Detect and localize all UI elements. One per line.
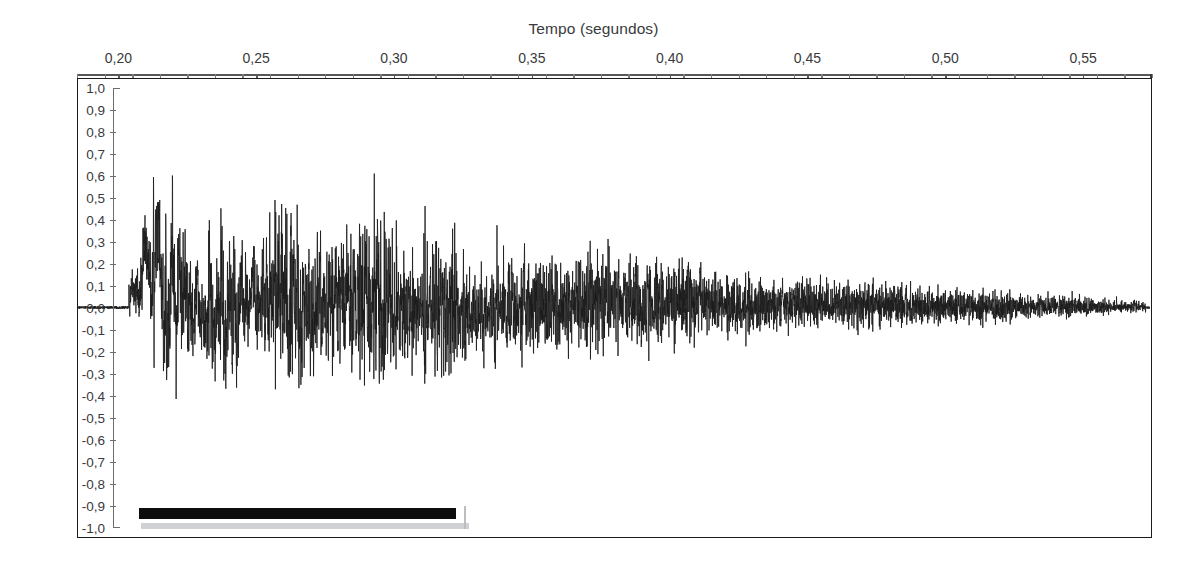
x-axis-minor-tick [353,74,354,78]
x-axis-minor-tick [105,74,106,78]
y-axis-tick-label: 0,2 [86,257,105,272]
x-axis-minor-tick [270,74,271,78]
y-axis-tick-label: -0,4 [82,389,105,404]
y-axis-tick-label: 0,7 [86,147,105,162]
y-axis-tick [110,352,116,353]
x-axis-minor-tick [463,74,464,78]
x-axis-minor-tick [380,74,381,78]
x-axis-minor-tick [876,74,877,78]
x-axis-minor-tick [573,74,574,78]
y-axis-tick-label: 0,1 [86,279,105,294]
x-axis-minor-tick [821,74,822,78]
waveform-trace [78,79,1150,536]
x-axis-minor-tick [518,74,519,78]
x-axis-minor-tick [1069,74,1070,78]
duration-bar-shadow [141,523,469,529]
y-axis-tick [110,154,116,155]
x-axis-minor-tick [711,74,712,78]
y-axis-tick-label: 0,5 [86,191,105,206]
x-axis-minor-tick [739,74,740,78]
x-axis-minor-tick [904,74,905,78]
y-axis-tick-label: -0,2 [82,345,105,360]
x-axis-minor-tick [325,74,326,78]
y-axis-tick-label: -0,5 [82,411,105,426]
x-axis-minor-tick [656,74,657,78]
y-axis-tick [110,176,116,177]
y-axis-tick [110,132,116,133]
x-axis-minor-tick [435,74,436,78]
y-axis-tick-label: -0,1 [82,323,105,338]
x-axis-minor-tick [1152,74,1153,78]
waveform-path [78,174,1150,399]
x-axis-minor-tick [160,74,161,78]
x-axis-minor-tick [766,74,767,78]
waveform-figure: Tempo (segundos) Amplitude relativa 0,20… [0,0,1187,566]
y-axis-tick-label: 0,3 [86,235,105,250]
duration-bar-endtick [464,506,466,529]
plot-area [77,78,1152,538]
y-axis-tick [110,220,116,221]
x-axis-tick-label: 0,30 [380,50,407,66]
x-axis-tick-label: 0,35 [518,50,545,66]
x-axis-minor-tick [1124,74,1125,78]
y-axis-tick-label: -1,0 [82,521,105,536]
x-axis-minor-tick [546,74,547,78]
y-axis-tick [110,110,116,111]
y-axis-tick [110,462,116,463]
y-axis-tick-label: 0,8 [86,125,105,140]
y-axis-tick [110,484,116,485]
x-axis-minor-tick [132,74,133,78]
y-axis-tick [110,506,116,507]
y-axis-cap-bottom [113,527,120,528]
y-axis-tick-label: 0,6 [86,169,105,184]
y-axis-tick-label: -0,8 [82,477,105,492]
y-axis-tick-label: 0,0 [86,301,105,316]
x-axis-minor-tick [187,74,188,78]
x-axis-minor-tick [987,74,988,78]
y-axis-tick [110,374,116,375]
y-axis-tick [110,264,116,265]
y-axis-tick-label: -0,9 [82,499,105,514]
x-axis-minor-tick [1097,74,1098,78]
x-axis-tick-label: 0,50 [932,50,959,66]
y-axis-tick [110,418,116,419]
x-axis-tick-label: 0,40 [656,50,683,66]
duration-bar [139,508,456,519]
y-axis-tick-label: 0,4 [86,213,105,228]
y-axis-tick [110,440,116,441]
x-axis-minor-tick [77,74,78,78]
x-axis-minor-tick [298,74,299,78]
x-axis-minor-tick [683,74,684,78]
y-axis-tick-label: -0,6 [82,433,105,448]
x-axis-minor-tick [408,74,409,78]
y-axis-tick-label: -0,7 [82,455,105,470]
x-axis-minor-tick [1042,74,1043,78]
x-axis-tick-label: 0,25 [243,50,270,66]
y-axis-tick [110,198,116,199]
y-axis-tick-label: -0,3 [82,367,105,382]
x-axis-minor-tick [794,74,795,78]
x-axis-tick-label: 0,45 [794,50,821,66]
x-axis-minor-tick [959,74,960,78]
x-axis-title: Tempo (segundos) [0,20,1187,38]
y-axis-tick [110,308,116,309]
y-axis-tick [110,396,116,397]
y-axis-tick [110,286,116,287]
x-axis-minor-tick [1014,74,1015,78]
x-axis-minor-tick [849,74,850,78]
y-axis-tick-label: 0,9 [86,103,105,118]
y-axis-ruler: 1,00,90,80,70,60,50,40,30,20,10,0-0,1-0,… [113,88,115,528]
x-axis-minor-tick [215,74,216,78]
x-axis-tick-label: 0,20 [105,50,132,66]
x-axis-minor-tick [490,74,491,78]
x-axis-minor-tick [242,74,243,78]
y-axis-tick [110,242,116,243]
y-axis-tick-label: 1,0 [86,81,105,96]
x-axis-minor-tick [628,74,629,78]
x-axis-ruler: 0,200,250,300,350,400,450,500,55 [77,74,1152,76]
x-axis-minor-tick [601,74,602,78]
y-axis-cap-top [113,88,120,89]
y-axis-tick [110,330,116,331]
x-axis-minor-tick [931,74,932,78]
x-axis-tick-label: 0,55 [1069,50,1096,66]
